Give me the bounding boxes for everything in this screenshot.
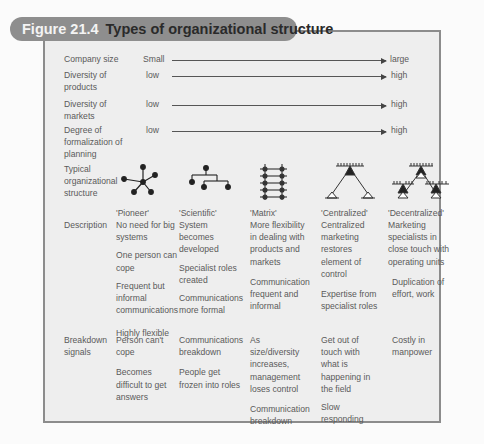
figure-number: Figure 21.4: [22, 21, 99, 37]
scale-label-diversity-products: Diversity of products: [64, 69, 124, 93]
description-item: One person can cope: [116, 249, 178, 273]
breakdown-item: Person can't cope: [116, 334, 176, 358]
type-name-pioneer: 'Pioneer': [116, 207, 149, 219]
scale-to-diversity-markets: high: [391, 98, 407, 110]
type-name-centralized: 'Centralized': [321, 207, 368, 219]
scale-to-diversity-products: high: [391, 69, 407, 81]
description-item: More flexibility in dealing with product…: [250, 219, 310, 268]
breakdown-scientific: Communications breakdown People get froz…: [179, 334, 241, 397]
scale-arrow-diversity-products: [172, 76, 386, 77]
scale-from-company-size: Small: [143, 53, 165, 65]
breakdown-item: As size/diversity increases, management …: [250, 334, 308, 395]
description-item: Communications more formal: [179, 292, 241, 316]
scale-arrow-diversity-markets: [172, 105, 386, 106]
scale-label-formalization: Degree of formalization of planning: [64, 124, 124, 161]
row-label-description: Description: [64, 219, 124, 231]
centralized-pyramid-icon: [324, 162, 378, 202]
star-network-icon: [118, 162, 168, 202]
breakdown-item: Get out of touch with what is happening …: [321, 334, 379, 395]
type-name-decentralized: 'Decentralized': [388, 207, 444, 219]
row-label-breakdown: Breakdown signals: [64, 334, 114, 358]
breakdown-item: Communication breakdown: [250, 403, 308, 427]
row-label-structure: Typical organizational structure: [64, 163, 124, 200]
hierarchy-tree-icon: [186, 162, 236, 202]
breakdown-item: Communications breakdown: [179, 334, 241, 358]
description-item: Expertise from specialist roles: [321, 288, 381, 312]
breakdown-item: Slow responding: [321, 401, 379, 425]
scale-arrow-formalization: [172, 131, 386, 132]
description-item: Specialist roles created: [179, 262, 241, 286]
type-name-matrix: 'Matrix': [250, 207, 277, 219]
matrix-ladder-icon: [258, 162, 292, 202]
scale-label-company-size: Company size: [64, 53, 124, 65]
breakdown-decentralized: Costly in manpower: [392, 334, 440, 364]
description-item: System becomes developed: [179, 219, 241, 256]
scale-arrow-company-size: [172, 60, 386, 61]
breakdown-pioneer: Person can't cope Becomes difficult to g…: [116, 334, 176, 409]
description-scientific: System becomes developed Specialist role…: [179, 219, 241, 322]
figure-title: Types of organizational structure: [106, 21, 334, 37]
description-matrix: More flexibility in dealing with product…: [250, 219, 310, 318]
description-centralized: Centralized marketing restores element o…: [321, 219, 381, 318]
description-item: Duplication of effort, work: [388, 276, 452, 300]
breakdown-item: People get frozen into roles: [179, 366, 241, 390]
description-item: No need for big systems: [116, 219, 178, 243]
decentralized-pyramid-icon: [389, 162, 453, 202]
description-pioneer: No need for big systems One person can c…: [116, 219, 178, 346]
description-item: Marketing specialists in close touch wit…: [388, 219, 452, 268]
breakdown-item: Costly in manpower: [392, 334, 440, 358]
scale-to-formalization: high: [391, 124, 407, 136]
scale-from-formalization: low: [146, 124, 159, 136]
type-name-scientific: 'Scientific': [179, 207, 217, 219]
description-decentralized: Marketing specialists in close touch wit…: [388, 219, 452, 306]
breakdown-matrix: As size/diversity increases, management …: [250, 334, 308, 433]
breakdown-item: Becomes difficult to get answers: [116, 366, 176, 403]
breakdown-centralized: Get out of touch with what is happening …: [321, 334, 379, 431]
scale-from-diversity-markets: low: [146, 98, 159, 110]
scale-to-company-size: large: [390, 53, 409, 65]
figure-title-pill: Figure 21.4 Types of organizational stru…: [10, 17, 297, 41]
description-item: Communication frequent and informal: [250, 276, 310, 313]
description-item: Centralized marketing restores element o…: [321, 219, 381, 280]
scale-from-diversity-products: low: [146, 69, 159, 81]
description-item: Frequent but informal communications: [116, 280, 178, 317]
scale-label-diversity-markets: Diversity of markets: [64, 98, 124, 122]
